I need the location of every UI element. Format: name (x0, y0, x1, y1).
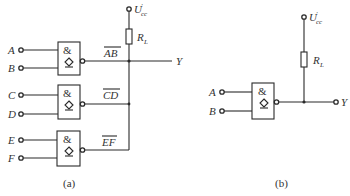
output-y-label: Y (341, 96, 349, 108)
resistor-label: R (312, 54, 320, 66)
output-label-ef: EF (101, 136, 116, 148)
resistor-sub: L (143, 38, 148, 46)
nand-gate-2: C D & CD (7, 85, 130, 120)
and-symbol: & (63, 133, 72, 145)
output-label-cd: CD (103, 89, 118, 101)
pullup-resistor-a (126, 29, 132, 44)
input-label-b: B (8, 62, 15, 74)
input-terminal-icon (19, 93, 23, 97)
input-terminal-icon (19, 112, 23, 116)
output-y-label: Y (176, 55, 184, 67)
inverting-output-icon (80, 59, 84, 63)
inverting-output-icon (80, 102, 84, 106)
caption-a: (a) (63, 177, 76, 190)
input-terminal-icon (19, 156, 23, 160)
junction-dot (127, 59, 130, 62)
supply-a: U ′ cc (127, 2, 148, 18)
diagram-a: U ′ cc R L Y A B & AB (7, 2, 184, 190)
inverting-output-icon (80, 148, 84, 152)
supply-sub: cc (316, 18, 323, 26)
output-label-ab: AB (103, 47, 118, 59)
supply-sub: cc (141, 10, 148, 18)
and-symbol: & (63, 87, 72, 99)
and-symbol: & (258, 85, 267, 97)
input-terminal-icon (19, 138, 23, 142)
input-label-f: F (7, 152, 15, 164)
resistor-sub: L (319, 61, 324, 69)
resistor-label: R (136, 31, 144, 43)
input-terminal-icon (19, 66, 23, 70)
supply-terminal-icon (127, 7, 131, 11)
nand-gate-3: E F & EF (7, 131, 129, 166)
input-terminal-icon (19, 48, 23, 52)
supply-prime: ′ (141, 2, 143, 10)
input-terminal-icon (220, 109, 224, 113)
input-terminal-icon (220, 90, 224, 94)
input-label-d: D (7, 108, 16, 120)
pullup-resistor-b (301, 52, 307, 67)
nand-gate-b: A B & (208, 83, 279, 119)
caption-b: (b) (275, 177, 288, 190)
output-terminal-icon (334, 100, 338, 104)
input-label-a: A (208, 86, 216, 98)
input-label-b: B (209, 105, 216, 117)
supply-b: U ′ cc (302, 10, 323, 26)
junction-dot (128, 103, 131, 106)
diagram-b: U ′ cc R L A B & Y (b) (208, 10, 349, 190)
input-label-c: C (8, 89, 16, 101)
input-label-a: A (7, 44, 15, 56)
open-drain-wired-and-diagram: U ′ cc R L Y A B & AB (0, 0, 350, 196)
inverting-output-icon (274, 100, 278, 104)
and-symbol: & (63, 44, 72, 56)
supply-prime: ′ (316, 10, 318, 18)
nand-gate-1: A B & AB (7, 42, 121, 75)
supply-terminal-icon (302, 15, 306, 19)
input-label-e: E (7, 134, 15, 146)
